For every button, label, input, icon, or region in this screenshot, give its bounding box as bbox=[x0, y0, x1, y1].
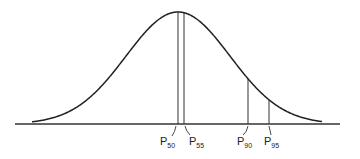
label-p90: P90 bbox=[237, 126, 252, 149]
svg-text:P55: P55 bbox=[189, 135, 204, 149]
label-p50: P50 bbox=[160, 126, 176, 149]
percentile-markers bbox=[178, 12, 269, 124]
label-p55: P55 bbox=[185, 126, 204, 149]
bell-curve-chart: P50 P55 P90 P95 bbox=[0, 0, 360, 159]
normal-curve bbox=[32, 12, 322, 122]
svg-text:P50: P50 bbox=[160, 135, 175, 149]
label-p95: P95 bbox=[264, 126, 279, 149]
svg-text:P95: P95 bbox=[264, 135, 279, 149]
svg-text:P90: P90 bbox=[237, 135, 252, 149]
